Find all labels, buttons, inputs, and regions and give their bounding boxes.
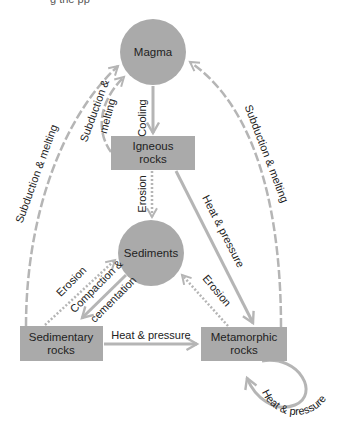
cropped-title-fragment: g the pp [50, 0, 90, 5]
label-sedimentary-heat-pressure: Heat & pressure [111, 329, 190, 341]
sediments-label: Sediments [124, 247, 179, 259]
igneous-label-line1: Igneous [133, 140, 174, 152]
label-igneous-erosion: Erosion [136, 175, 148, 212]
sedimentary-label-line2: rocks [47, 344, 75, 356]
rock-cycle-diagram: g the pp Magma Sediments Igneous rocks S… [0, 0, 347, 430]
metamorphic-label-line2: rocks [230, 344, 258, 356]
label-metamorphic-loop-path: Heat & pressure [260, 387, 328, 417]
metamorphic-label-line1: Metamorphic [211, 331, 278, 343]
arrow-igneous-heat-pressure [176, 171, 253, 323]
igneous-label-line2: rocks [139, 153, 167, 165]
magma-label: Magma [134, 46, 173, 58]
label-metamorphic-loop: Heat & pressure [260, 387, 328, 417]
sedimentary-label-line1: Sedimentary [29, 331, 94, 343]
label-sedimentary-subduction: Subduction & melting [13, 123, 60, 225]
label-cooling: Cooling [136, 99, 148, 136]
